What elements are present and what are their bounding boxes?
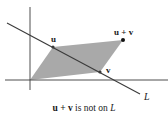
point-v — [98, 70, 101, 73]
caption-text: is not on — [73, 103, 110, 113]
label-v: v — [106, 65, 111, 75]
point-u-plus-v — [121, 38, 125, 42]
label-u-plus-v: u + v — [114, 27, 134, 37]
label-L: L — [143, 91, 150, 102]
caption: u + v is not on L — [0, 103, 168, 113]
label-u: u — [51, 34, 56, 44]
caption-vector-sum: u + v — [53, 103, 73, 113]
parallelogram-diagram: u v u + v L — [0, 0, 168, 119]
point-u — [51, 45, 54, 48]
caption-line-name: L — [110, 103, 115, 113]
